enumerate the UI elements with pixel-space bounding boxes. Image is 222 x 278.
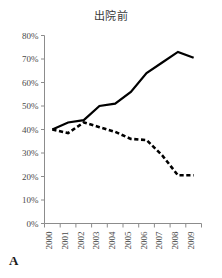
y-tick-label: 60% [22,78,39,88]
series-line-dashed-series [52,122,193,175]
x-tick-label: 2009 [186,231,196,250]
y-tick-label: 20% [22,172,39,182]
y-tick-label: 0% [27,219,40,229]
y-tick-label: 10% [22,195,39,205]
x-tick-label: 2000 [44,231,54,250]
x-tick-label: 2008 [170,231,180,250]
x-tick-label: 2003 [91,231,101,250]
x-tick-label: 2001 [60,232,70,250]
y-tick-label: 50% [22,101,39,111]
series-lines [52,52,193,175]
line-chart-plot: 0%10%20%30%40%50%60%70%80% 2000200120022… [0,0,222,278]
x-tick-label: 2004 [107,231,117,250]
x-tick-label: 2002 [76,232,86,250]
y-tick-label: 30% [22,148,39,158]
y-tick-label: 80% [22,31,39,41]
x-axis: 2000200120022003200420052006200720082009 [44,224,201,250]
y-axis: 0%10%20%30%40%50%60%70%80% [22,31,45,229]
chart-page: 出院前 0%10%20%30%40%50%60%70%80% 200020012… [0,0,222,278]
series-line-solid-series [52,52,193,130]
panel-label: A [9,253,18,269]
x-tick-label: 2007 [154,231,164,250]
y-tick-label: 70% [22,54,39,64]
x-tick-label: 2005 [123,231,133,250]
y-tick-label: 40% [22,125,39,135]
x-tick-label: 2006 [139,231,149,250]
